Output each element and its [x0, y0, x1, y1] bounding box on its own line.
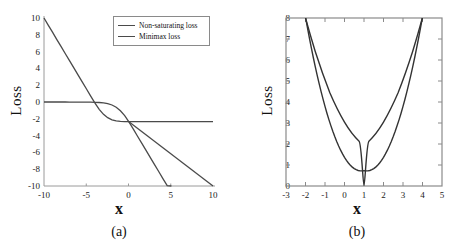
panel-b-caption: (b)	[238, 224, 476, 240]
panel-b-xlabel: x	[238, 200, 476, 218]
panel-a: Loss 10 8 6 4 2 0 -2 -4 -6 -8 -10 -10 -5…	[0, 0, 238, 248]
legend-label-minimax: Minimax loss	[139, 33, 180, 41]
panel-b-xticks	[306, 18, 423, 186]
panel-b-yticks	[286, 39, 442, 165]
legend-label-non-saturating: Non-saturating loss	[139, 22, 198, 30]
panel-a-legend: Non-saturating loss Minimax loss	[113, 16, 210, 46]
legend-line-swatch-icon	[118, 25, 135, 26]
panel-b: Loss 8 7 6 5 4 3 2 1 0 -3 -2 -1 0 1 2 3 …	[238, 0, 476, 248]
panel-a-curve-minimax-tail	[129, 122, 213, 186]
panel-a-xlabel: x	[0, 200, 238, 218]
legend-item-minimax[interactable]: Minimax loss	[118, 31, 205, 42]
panel-b-curve-parabola-smooth	[306, 17, 423, 171]
legend-item-non-saturating[interactable]: Non-saturating loss	[118, 20, 205, 31]
figure-container: Loss 10 8 6 4 2 0 -2 -4 -6 -8 -10 -10 -5…	[0, 0, 476, 248]
legend-line-swatch-icon	[118, 36, 135, 37]
panel-b-frame	[286, 18, 442, 186]
panel-a-caption: (a)	[0, 224, 238, 240]
panel-a-curve-minimax	[44, 102, 171, 186]
